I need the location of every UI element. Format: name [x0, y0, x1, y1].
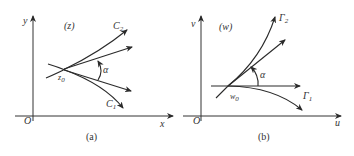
plane-label: (z) [64, 20, 75, 32]
curve-c2 [46, 30, 127, 78]
angle-label: α [103, 64, 109, 75]
caption-a: (a) [86, 131, 97, 143]
v-axis-label: v [191, 18, 196, 29]
tangent-gamma2-arrow [228, 40, 285, 86]
panel-a: y x O (z) α z0 C2 C1 (a) [15, 15, 173, 143]
u-axis-label: u [335, 117, 340, 128]
point-w0-label: w0 [230, 92, 239, 103]
curve-gamma2-label: Γ2 [278, 12, 289, 25]
curve-c1-label: C1 [106, 98, 116, 111]
point-z0-label: z0 [57, 73, 65, 84]
tangent-c1-arrow [64, 70, 131, 91]
curve-c2-label: C2 [113, 20, 124, 33]
angle-arc [251, 67, 258, 86]
panel-b: v u O (w) α w0 Γ2 Γ1 (b) [183, 12, 341, 143]
curve-gamma1-label: Γ1 [302, 90, 312, 103]
caption-b: (b) [258, 131, 270, 143]
x-axis-label: x [159, 118, 165, 129]
origin-label: O [24, 115, 31, 126]
origin-label: O [193, 115, 200, 126]
y-axis-label: y [22, 15, 28, 26]
plane-label: (w) [219, 21, 233, 33]
angle-label: α [260, 69, 266, 80]
curve-gamma1 [228, 86, 302, 110]
angle-arc [98, 61, 101, 80]
conformal-mapping-figure: y x O (z) α z0 C2 C1 (a) v u O (w) [0, 0, 354, 156]
